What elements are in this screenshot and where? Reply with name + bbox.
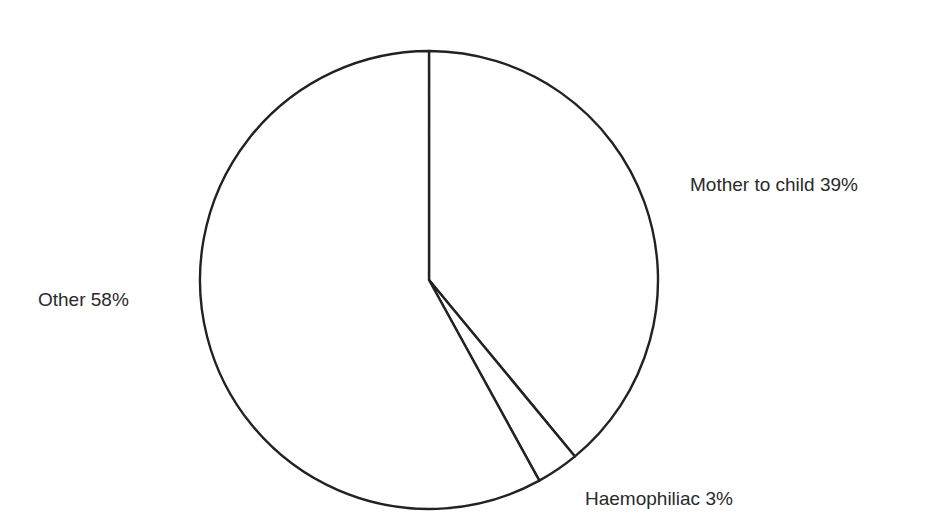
pie-chart: [0, 0, 929, 528]
slice-label-haemophiliac: Haemophiliac 3%: [585, 488, 733, 510]
pie-slices: [200, 51, 658, 509]
slice-label-other: Other 58%: [38, 289, 129, 311]
slice-label-mother-to-child: Mother to child 39%: [690, 174, 858, 196]
